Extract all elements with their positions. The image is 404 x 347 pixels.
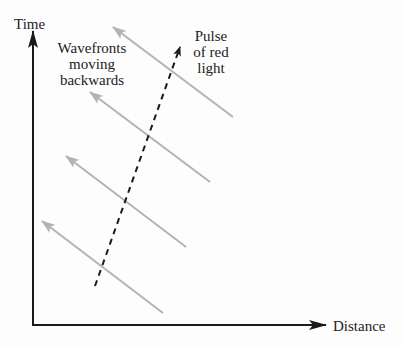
y-axis-label: Time [14, 16, 45, 32]
pulse-line-3: light [186, 60, 236, 76]
wavefront-arrow-4 [42, 221, 163, 313]
pulse-line-1: Pulse [186, 28, 236, 44]
x-axis-label: Distance [333, 318, 385, 334]
pulse-line-2: of red [186, 44, 236, 60]
pulse-annotation: Pulse of red light [186, 28, 236, 76]
wavefronts-annotation: Wavefronts moving backwards [52, 40, 132, 88]
wavefronts-line-3: backwards [52, 72, 132, 88]
wavefronts-line-1: Wavefronts [52, 40, 132, 56]
spacetime-diagram: Time Distance Wavefronts moving backward… [0, 0, 404, 347]
wavefront-arrow-2 [90, 92, 210, 182]
wavefronts-line-2: moving [52, 56, 132, 72]
